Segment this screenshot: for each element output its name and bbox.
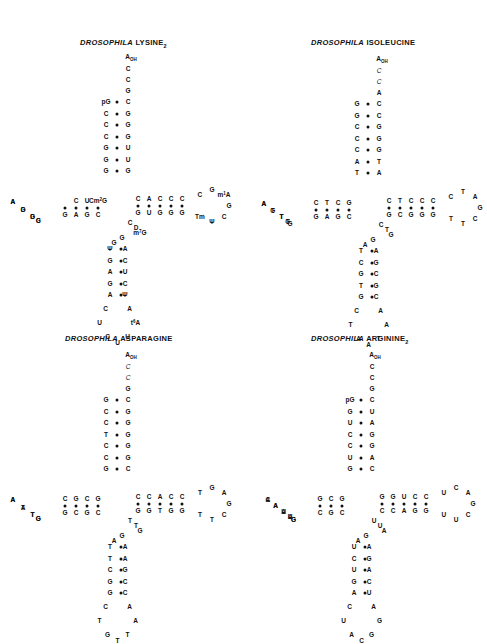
nucleotide: C: [377, 112, 382, 119]
nucleotide: G: [103, 168, 108, 175]
nucleotide: G: [386, 212, 391, 219]
nucleotide: G: [376, 135, 381, 142]
nucleotide: G: [125, 431, 130, 438]
nucleotide: A: [367, 567, 372, 574]
nucleotide: G: [376, 124, 381, 131]
title-asparagine: DROSOPHILA ASPARAGINE: [65, 334, 173, 343]
nucleotide: C: [158, 196, 163, 203]
title-arginine2: DROSOPHILA ARGININE2: [311, 334, 409, 345]
nucleotide: A: [127, 305, 132, 312]
nucleotide: C: [136, 494, 141, 501]
nucleotide: T: [398, 198, 402, 205]
base-pair-dot: [392, 503, 395, 506]
nucleotide: C: [424, 494, 429, 501]
nucleotide: G: [125, 122, 130, 129]
nucleotide: A: [363, 242, 368, 249]
nucleotide: G: [470, 501, 475, 508]
nucleotide: G: [125, 110, 130, 117]
nucleotide: C: [391, 508, 396, 515]
nucleotide: U: [442, 512, 447, 519]
base-pair-dot: [367, 126, 370, 129]
base-pair-dot: [64, 505, 67, 508]
nucleotide: G: [408, 212, 413, 219]
base-pair-dot: [116, 170, 119, 173]
nucleotide: C: [370, 397, 375, 404]
nucleotide: A: [123, 544, 128, 551]
base-pair-dot: [348, 209, 351, 212]
nucleotide: G: [209, 187, 214, 194]
nucleotide: A: [10, 496, 15, 503]
nucleotide: A: [370, 420, 375, 427]
nucleotide: A: [133, 617, 138, 624]
base-pair-dot: [360, 399, 363, 402]
nucleotide: A: [147, 196, 152, 203]
nucleotide: G: [369, 431, 374, 438]
nucleotide: U: [147, 210, 152, 217]
nucleotide: C: [126, 466, 131, 473]
nucleotide: G: [103, 397, 108, 404]
nucleotide: C: [108, 567, 113, 574]
base-pair-dot: [170, 205, 173, 208]
nucleotide: m1A: [218, 191, 231, 198]
nucleotide: G: [135, 210, 140, 217]
nucleotide: T: [377, 158, 381, 165]
nucleotide: G: [125, 443, 130, 450]
nucleotide: G: [107, 257, 112, 264]
nucleotide: G: [137, 528, 142, 535]
nucleotide: C: [359, 637, 364, 644]
base-pair-dot: [159, 205, 162, 208]
nucleotide: T: [359, 282, 363, 289]
nucleotide: T: [98, 617, 102, 624]
nucleotide: G: [430, 212, 435, 219]
nucleotide: T: [128, 518, 132, 525]
nucleotide: C: [398, 212, 403, 219]
nucleotide: G: [135, 508, 140, 515]
base-pair-dot: [86, 207, 89, 210]
nucleotide: G: [377, 617, 382, 624]
nucleotide: C: [104, 420, 109, 427]
base-pair-dot: [360, 410, 363, 413]
nucleotide: T: [158, 508, 162, 515]
nucleotide: pG: [101, 99, 110, 106]
nucleotide: C: [359, 259, 364, 266]
base-pair-dot: [116, 147, 119, 150]
nucleotide: A: [382, 528, 387, 535]
nucleotide: C: [123, 578, 128, 585]
base-pair-dot: [367, 114, 370, 117]
base-pair-dot: [360, 445, 363, 448]
base-pair-dot: [367, 160, 370, 163]
nucleotide: T: [31, 512, 35, 519]
base-pair-dot: [326, 209, 329, 212]
base-pair-dot: [116, 101, 119, 104]
nucleotide: A: [377, 90, 382, 97]
nucleotide: G: [122, 567, 127, 574]
nucleotide: U: [402, 494, 407, 501]
base-pair-dot: [330, 505, 333, 508]
base-pair-dot: [159, 503, 162, 506]
nucleotide: C: [370, 364, 375, 371]
nucleotide: C: [352, 555, 357, 562]
base-pair-dot: [137, 503, 140, 506]
nucleotide: C: [377, 68, 382, 75]
nucleotide: C: [104, 454, 109, 461]
panel-arginine2: DROSOPHILA ARGININE2 AOHCCGpGCGUUACGCGUA…: [244, 320, 487, 639]
nucleotide: A: [288, 514, 293, 521]
nucleotide: C: [409, 198, 414, 205]
nucleotide: C: [466, 512, 471, 519]
base-pair-dot: [360, 433, 363, 436]
nucleotide: G: [370, 237, 375, 244]
base-pair-dot: [421, 207, 424, 210]
nucleotide: G: [125, 420, 130, 427]
nucleotide: C: [123, 280, 128, 287]
nucleotide: G: [373, 259, 378, 266]
nucleotide: G: [179, 508, 184, 515]
base-pair-dot: [432, 207, 435, 210]
nucleotide: C: [348, 431, 353, 438]
base-pair-dot: [97, 505, 100, 508]
base-pair-dot: [341, 505, 344, 508]
nucleotide: C: [123, 590, 128, 597]
nucleotide: G: [107, 590, 112, 597]
nucleotide: G: [351, 578, 356, 585]
nucleotide: C: [126, 397, 131, 404]
base-pair-dot: [64, 207, 67, 210]
